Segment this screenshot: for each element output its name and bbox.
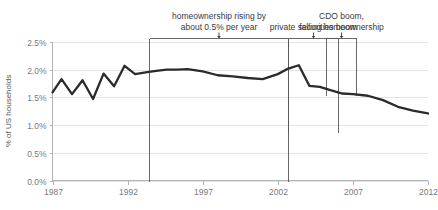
x-tick-label-1997: 1997 [194,187,213,197]
data-series-line [53,65,429,113]
annotation-bracket-cdo-boom [327,39,357,96]
annotation-arrowhead-homeownership-rising [217,36,221,38]
x-tick-label-2012: 2012 [419,187,438,197]
annotation-label-cdo-boom-line-1: CDO boom, [319,11,364,21]
y-tick-label-0.0%: 0.0% [27,177,47,187]
y-axis-ticks-group: 0.0%0.5%1.0%1.5%2.0%2.5% [27,38,52,187]
annotation-bracket-homeownership-rising [150,39,289,182]
x-tick-label-1992: 1992 [119,187,138,197]
chart-container: 0.0%0.5%1.0%1.5%2.0%2.5% 198719921997200… [0,0,438,210]
annotation-label-homeownership-rising-line-1: homeownership rising by [172,11,267,21]
y-tick-label-1.0%: 1.0% [27,121,47,131]
annotation-homeownership-rising: homeownership rising byabout 0.5% per ye… [150,11,289,182]
y-tick-label-2.5%: 2.5% [27,38,47,48]
y-tick-label-0.5%: 0.5% [27,149,47,159]
annotation-arrowhead-cdo-boom [340,36,344,38]
annotation-label-homeownership-rising-line-2: about 0.5% per year [181,22,258,32]
y-tick-label-1.5%: 1.5% [27,93,47,103]
x-tick-label-2007: 2007 [344,187,363,197]
annotations-group: homeownership rising byabout 0.5% per ye… [150,11,385,182]
line-chart: 0.0%0.5%1.0%1.5%2.0%2.5% 198719921997200… [0,0,438,210]
x-axis-ticks-group: 198719921997200220072012 [44,181,438,197]
annotation-arrowhead-private-securities-boom [312,36,316,38]
y-axis-title: % of US households [4,75,13,148]
y-tick-label-2.0%: 2.0% [27,66,47,76]
gridlines-group [53,43,429,182]
x-tick-label-2002: 2002 [269,187,288,197]
x-tick-label-1987: 1987 [44,187,63,197]
annotation-label-private-securities-boom-line-1: private securities boom [270,22,357,32]
